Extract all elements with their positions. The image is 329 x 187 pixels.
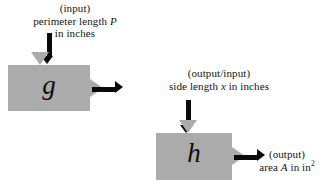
intermediate-label-line2: side length x in inches <box>139 80 299 93</box>
output-label-line2-post: in in <box>288 161 311 173</box>
function-machine-diagram: (input) perimeter length P in inches g (… <box>0 0 329 187</box>
input-variable-p: P <box>110 15 117 27</box>
input-label-line2-text: perimeter length <box>33 15 110 27</box>
arrow-shaft <box>92 87 116 92</box>
output-label: (output) area A in in2 <box>245 148 329 173</box>
output-variable-a: A <box>281 161 288 173</box>
machine-letter-g: g <box>8 72 90 99</box>
arrow-head <box>115 81 123 93</box>
input-label: (input) perimeter length P in inches <box>4 2 146 40</box>
output-label-line2-pre: area <box>259 161 281 173</box>
input-port-wing-g <box>31 52 49 65</box>
output-label-line2: area A in in2 <box>245 161 329 174</box>
intermediate-label-line2-post: in inches <box>226 80 269 92</box>
input-port-wing-h <box>179 120 197 133</box>
input-label-line3: in inches <box>4 27 146 40</box>
machine-letter-h: h <box>156 140 232 167</box>
intermediate-label-line2-pre: side length <box>169 80 221 92</box>
input-label-line1: (input) <box>4 2 146 15</box>
output-label-exponent: 2 <box>311 159 315 168</box>
intermediate-label-line1: (output/input) <box>139 67 299 80</box>
input-label-line2: perimeter length P <box>4 15 146 28</box>
intermediate-label: (output/input) side length x in inches <box>139 67 299 92</box>
output-label-line1: (output) <box>245 148 329 161</box>
